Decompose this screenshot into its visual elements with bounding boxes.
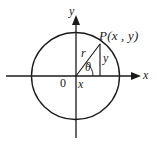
x-axis-label: x xyxy=(143,69,148,81)
point-p-label: P(x , y) xyxy=(99,29,139,42)
origin-label: 0 xyxy=(60,77,66,89)
y-segment-label: y xyxy=(103,52,108,64)
diagram-canvas xyxy=(0,0,157,144)
y-axis-label: y xyxy=(69,5,74,17)
radius-label: r xyxy=(81,47,86,59)
theta-angle-label: θ xyxy=(85,61,91,73)
x-axis-arrowhead-icon xyxy=(131,72,141,80)
x-axis xyxy=(6,72,141,80)
x-segment-label: x xyxy=(78,78,83,90)
trigonometry-circle-diagram: P(x , y) y x 0 x y r θ xyxy=(0,0,157,144)
